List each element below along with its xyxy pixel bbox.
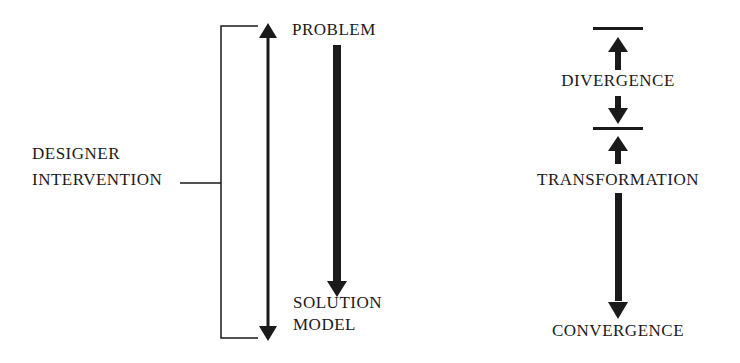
divergence-label: DIVERGENCE (561, 70, 675, 92)
transformation-label: TRANSFORMATION (537, 169, 699, 191)
solution-label: SOLUTION (293, 292, 382, 314)
middle-bar (593, 127, 643, 130)
thick-down-arrow-icon (608, 193, 628, 319)
top-bar (593, 27, 643, 30)
designer-intervention-bracket (180, 26, 258, 338)
problem-label: PROBLEM (292, 19, 376, 41)
double-headed-arrow-icon (259, 23, 277, 341)
up-arrow-icon (608, 136, 628, 164)
design-process-diagram: DESIGNER INTERVENTION PROBLEM SOLUTION M… (0, 0, 740, 363)
intervention-label: INTERVENTION (32, 169, 162, 191)
thick-down-arrow-icon (327, 45, 347, 297)
designer-intervention-label: DESIGNER INTERVENTION (32, 143, 162, 191)
model-label: MODEL (293, 314, 382, 336)
up-arrow-icon (608, 37, 628, 70)
convergence-label: CONVERGENCE (552, 320, 684, 342)
designer-label: DESIGNER (32, 143, 162, 165)
solution-model-label: SOLUTION MODEL (293, 292, 382, 336)
down-arrow-icon (608, 96, 628, 124)
